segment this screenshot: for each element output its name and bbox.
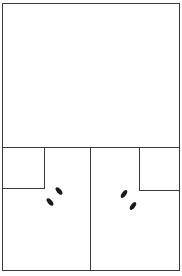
footprint-icon: [54, 186, 63, 196]
footprints-layer: [0, 0, 182, 276]
footprint-icon: [120, 189, 129, 199]
footprint-icon: [129, 201, 138, 211]
footprint-icon: [45, 197, 54, 207]
